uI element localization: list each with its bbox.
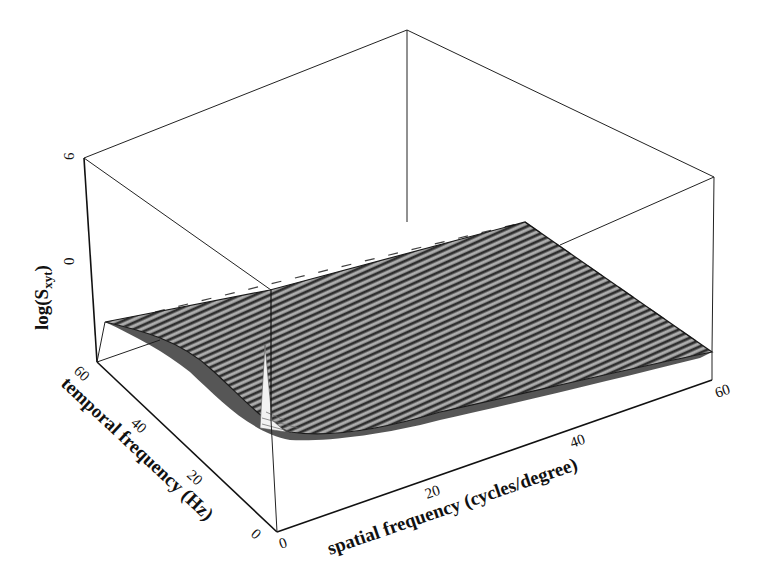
z-axis: 6 0 log(Sxyt) xyxy=(31,152,77,330)
x-tick-60: 60 xyxy=(713,381,732,401)
y-tick-0: 0 xyxy=(248,525,264,542)
z-tick-0: 0 xyxy=(61,258,77,266)
x-tick-0: 0 xyxy=(277,534,289,552)
mesh-surface xyxy=(105,222,712,440)
z-axis-title: log(Sxyt) xyxy=(31,265,55,330)
spatial-axis-title: spatial frequency (cycles/degree) xyxy=(324,453,580,559)
z-tick-6: 6 xyxy=(61,152,77,160)
temporal-axis-title: temporal frequency (Hz) xyxy=(57,373,218,526)
surface-plot: 6 0 log(Sxyt) 60 40 20 0 temporal freque… xyxy=(0,0,770,585)
x-tick-40: 40 xyxy=(568,431,587,451)
